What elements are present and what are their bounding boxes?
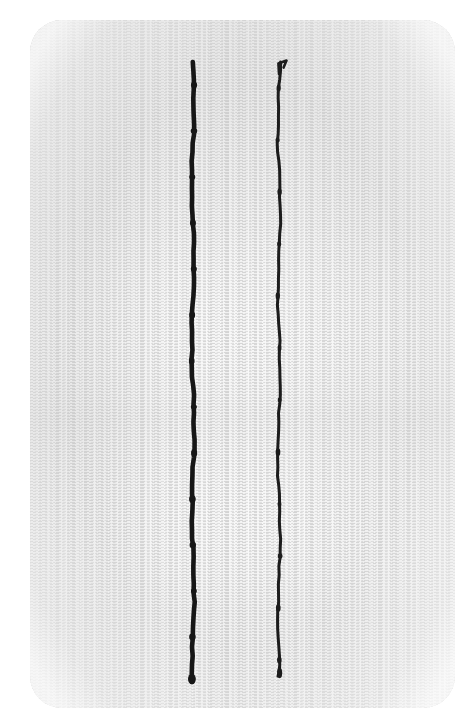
- right-seam-knot: [278, 398, 282, 403]
- left-seam-knot: [191, 128, 198, 133]
- left-seam-knot: [190, 220, 196, 227]
- right-seam-knot: [277, 241, 281, 246]
- fabric-swatch: [30, 20, 455, 708]
- right-seam-end-knot: [277, 668, 282, 678]
- left-seam-knot: [191, 405, 197, 410]
- right-seam-knot: [276, 292, 280, 299]
- right-seam-knot: [277, 84, 281, 91]
- right-seam-knot: [276, 448, 281, 456]
- fabric-seam-photograph: [0, 0, 472, 728]
- left-seam-knot: [189, 634, 196, 641]
- left-seam-knot: [191, 588, 197, 593]
- right-seam-knot: [277, 188, 281, 195]
- right-seam-knot: [276, 604, 281, 612]
- left-seam-knot: [189, 357, 195, 364]
- right-seam-knot: [278, 345, 282, 352]
- left-seam-end-knot: [188, 674, 196, 684]
- left-seam-knot: [191, 81, 197, 88]
- left-seam-knot: [190, 542, 196, 548]
- left-seam-knot: [191, 449, 197, 457]
- left-seam-knot: [191, 266, 197, 272]
- left-seam-knot: [189, 174, 195, 180]
- fabric-edge-vignette: [30, 20, 455, 708]
- right-seam-knot: [277, 656, 282, 663]
- right-seam-knot: [278, 553, 283, 558]
- photograph-canvas: close-up photograph of two parallel dark…: [0, 0, 472, 728]
- right-seam-knot: [275, 138, 279, 143]
- right-seam-knot: [277, 501, 281, 506]
- left-seam-knot: [189, 311, 195, 318]
- left-seam-knot: [189, 495, 196, 503]
